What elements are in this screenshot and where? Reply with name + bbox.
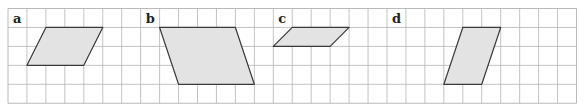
panel-label-d: d bbox=[392, 12, 401, 25]
panel-label-c: c bbox=[278, 12, 286, 25]
panel-label-b: b bbox=[146, 12, 155, 25]
square-grid bbox=[0, 0, 585, 107]
parallelogram-c bbox=[273, 27, 349, 46]
parallelogram-d bbox=[444, 27, 501, 84]
parallelogram-a bbox=[27, 27, 103, 65]
parallelograms bbox=[27, 27, 501, 84]
parallelogram-b bbox=[160, 27, 255, 84]
panel-label-a: a bbox=[13, 12, 21, 25]
